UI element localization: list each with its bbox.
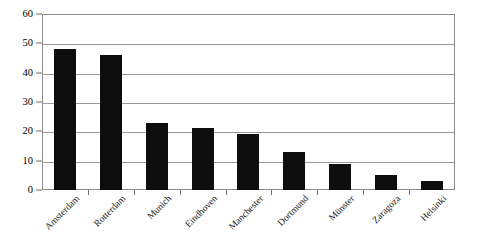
bar-slot: [317, 14, 363, 190]
bar: [237, 134, 259, 190]
y-tick-label-0: 0: [28, 185, 33, 196]
bar-slot: [271, 14, 317, 190]
bar-chart: 0102030405060 AmsterdamRotterdamMunichEi…: [0, 0, 478, 247]
x-axis-labels: AmsterdamRotterdamMunichEindhovenManches…: [42, 192, 455, 247]
bar-slot: [180, 14, 226, 190]
bar-slot: [363, 14, 409, 190]
y-tick-label-30: 30: [23, 97, 34, 108]
bar: [146, 123, 168, 190]
bar-slot: [226, 14, 272, 190]
bar: [283, 152, 305, 190]
y-tick-label-20: 20: [23, 126, 34, 137]
y-tick-label-60: 60: [23, 9, 34, 20]
x-tick-label-amsterdam: Amsterdam: [0, 194, 82, 247]
bar: [421, 181, 443, 190]
bar-slot: [42, 14, 88, 190]
bar-slot: [409, 14, 455, 190]
bar-slot: [134, 14, 180, 190]
bars-container: [42, 14, 455, 190]
bar: [329, 164, 351, 190]
bar: [192, 128, 214, 190]
bar: [100, 55, 122, 190]
bar-slot: [88, 14, 134, 190]
y-tick-label-40: 40: [23, 67, 34, 78]
y-tick-label-10: 10: [23, 155, 34, 166]
bar: [54, 49, 76, 190]
bar: [375, 175, 397, 190]
y-axis: 0102030405060: [0, 0, 42, 191]
y-tick-label-50: 50: [23, 38, 34, 49]
